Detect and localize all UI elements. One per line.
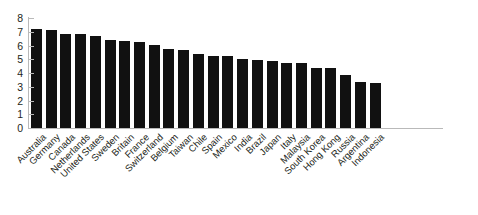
bars-layer xyxy=(0,0,478,128)
bar xyxy=(267,61,278,128)
bar xyxy=(296,63,307,128)
y-tick-mark xyxy=(29,32,34,33)
bar xyxy=(370,83,381,128)
bar xyxy=(252,60,263,128)
bar xyxy=(340,75,351,128)
bar xyxy=(208,56,219,128)
x-axis: AustraliaGermanyCanadaNetherlandsUnited … xyxy=(0,128,478,215)
y-tick-mark xyxy=(29,87,34,88)
bar xyxy=(325,68,336,129)
y-tick-mark xyxy=(29,73,34,74)
bar xyxy=(46,30,57,128)
plot-area: 012345678 xyxy=(0,0,478,132)
bar xyxy=(281,63,292,128)
y-tick-mark xyxy=(29,18,34,19)
bar xyxy=(193,54,204,128)
bar xyxy=(237,59,248,128)
bar xyxy=(75,34,86,128)
bar xyxy=(311,68,322,129)
y-tick-mark xyxy=(29,46,34,47)
bar xyxy=(163,49,174,128)
y-tick-mark xyxy=(29,101,34,102)
bar xyxy=(134,42,145,128)
bar xyxy=(60,34,71,128)
bar xyxy=(105,40,116,128)
bar xyxy=(222,56,233,128)
bar-chart: 012345678 AustraliaGermanyCanadaNetherla… xyxy=(0,0,478,215)
bar xyxy=(178,50,189,128)
bar xyxy=(119,41,130,128)
bar xyxy=(355,82,366,128)
bar xyxy=(149,45,160,128)
y-tick-mark xyxy=(29,114,34,115)
bar xyxy=(90,36,101,128)
y-tick-mark xyxy=(29,59,34,60)
